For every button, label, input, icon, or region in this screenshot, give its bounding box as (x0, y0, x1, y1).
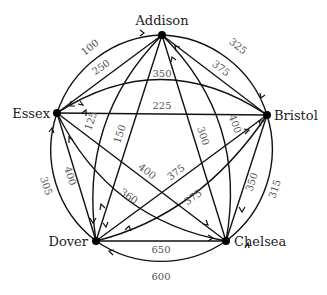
node-addison[interactable] (158, 31, 166, 39)
node-bristol[interactable] (263, 111, 271, 119)
label-dover: Dover (48, 234, 88, 249)
label-essex: Essex (12, 106, 51, 121)
weight-essex-chelsea: 400 (136, 161, 158, 181)
weight-chelsea-essex-arc: 360 (118, 186, 140, 206)
weight-chelsea-bristol: 350 (243, 171, 259, 193)
weight-addison-chelsea-arc: 400 (227, 113, 244, 135)
directed-weighted-graph: Addison Bristol Chelsea Dover Essex 100 … (0, 0, 327, 295)
edge-addison-essex (57, 35, 162, 113)
weight-chelsea-dover-outer: 600 (151, 271, 170, 282)
label-addison: Addison (134, 13, 189, 28)
weight-essex-bristol-arc: 350 (152, 68, 171, 79)
node-chelsea[interactable] (222, 237, 230, 245)
weight-bristol-chelsea-outer: 315 (266, 178, 282, 200)
weight-essex-addison-outer: 100 (79, 37, 101, 57)
weight-bristol-essex: 225 (152, 100, 171, 111)
weight-bristol-dover-arc: 375 (182, 187, 204, 207)
weight-bristol-addison: 375 (210, 58, 232, 78)
weight-essex-dover: 400 (62, 165, 78, 186)
weight-addison-dover: 150 (111, 123, 127, 145)
label-chelsea: Chelsea (234, 234, 287, 249)
weight-dover-essex-outer: 305 (38, 175, 54, 197)
weight-chelsea-addison: 300 (195, 125, 211, 147)
weight-dover-chelsea: 650 (151, 244, 170, 255)
node-essex[interactable] (53, 109, 61, 117)
label-bristol: Bristol (274, 108, 318, 123)
node-dover[interactable] (92, 237, 100, 245)
weight-addison-bristol-outer: 325 (227, 36, 249, 56)
weight-dover-bristol: 375 (165, 162, 187, 182)
